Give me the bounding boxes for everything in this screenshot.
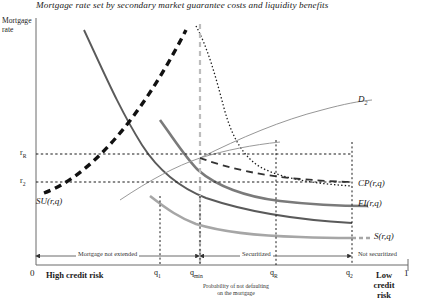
curve-s (150, 196, 352, 238)
corner-label-low-credit-risk: Low credit risk (366, 270, 402, 300)
chart-canvas (0, 0, 421, 304)
x-tick-origin: 0 (30, 268, 35, 278)
y-tick-r2: r2 (20, 176, 25, 187)
curve-cp (196, 26, 352, 186)
connector-fi-dashed (200, 158, 352, 182)
region-label-not-securitized: Not securitized (358, 250, 397, 257)
low-credit-risk-line3: risk (377, 290, 391, 300)
x-tick-q1: q1 (154, 268, 161, 279)
curve-label-su: SU(r,q) (36, 196, 62, 206)
y-tick-rR: rR (20, 148, 26, 159)
x-axis-caption: Probability of not defaulting on the mor… (182, 283, 290, 297)
curve-label-cp: CP(r,q) (358, 178, 385, 188)
x-axis-caption-line1: Probability of not defaulting (203, 283, 269, 289)
curve-label-d2: D2 (358, 94, 368, 106)
curve-label-fi: FI(r,q) (358, 198, 382, 208)
chart-figure: Mortgage rate set by secondary market gu… (0, 0, 421, 304)
x-tick-q2: q2 (346, 268, 353, 279)
low-credit-risk-line1: Low (376, 270, 392, 280)
region-label-mortgage-not-extended: Mortgage not extended (76, 250, 139, 257)
curve-label-s: S(r,q) (374, 231, 394, 241)
x-tick-end: 1 (404, 268, 409, 278)
x-tick-qmin: qmin (190, 268, 203, 279)
region-label-securitized: Securitized (240, 250, 273, 257)
curve-d2 (200, 100, 372, 158)
x-tick-qR: qR (270, 268, 278, 279)
curve-fi (160, 120, 368, 206)
corner-label-high-credit-risk: High credit risk (46, 270, 103, 280)
curve-su (44, 30, 186, 193)
low-credit-risk-line2: credit (373, 280, 394, 290)
x-axis-caption-line2: on the mortgage (217, 290, 255, 296)
curve-d1 (84, 30, 352, 223)
